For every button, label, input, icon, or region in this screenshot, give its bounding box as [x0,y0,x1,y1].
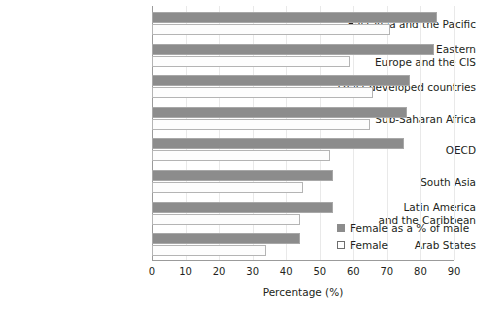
chart-legend: Female as a % of male Female [337,219,469,253]
x-axis-tick-label: 10 [179,266,192,277]
x-axis-tick-label: 0 [149,266,155,277]
bar-female-pct-of-male [152,233,300,244]
bar-group [152,107,454,131]
legend-label-female: Female [350,239,388,251]
bar-female-pct-of-male [152,44,434,55]
x-axis-line [152,260,454,261]
x-axis-tick-label: 70 [381,266,394,277]
legend-label-ratio: Female as a % of male [350,222,469,234]
x-axis-tick-label: 60 [347,266,360,277]
legend-swatch-filled-icon [337,224,345,232]
x-axis-tick-label: 50 [313,266,326,277]
bar-female-pct-of-male [152,202,333,213]
bar-female-pct-of-male [152,107,407,118]
x-axis-tick-label: 20 [213,266,226,277]
bar-female [152,56,350,67]
bar-female [152,245,266,256]
bar-female-pct-of-male [152,12,437,23]
bar-group [152,170,454,194]
x-axis-tick-label: 30 [246,266,259,277]
legend-item-ratio: Female as a % of male [337,219,469,236]
legend-item-female: Female [337,236,469,253]
bar-female [152,182,303,193]
bar-female [152,87,373,98]
bar-female [152,150,330,161]
x-axis-tick-label: 80 [414,266,427,277]
bar-group [152,44,454,68]
bar-group [152,138,454,162]
bar-group [152,12,454,36]
bar-female [152,119,370,130]
x-axis-title: Percentage (%) [152,286,454,298]
x-axis-tick-label: 90 [448,266,461,277]
bar-female [152,24,390,35]
bar-group [152,75,454,99]
bar-chart: East Asia and the PacificCentral and Eas… [0,0,481,318]
bar-female-pct-of-male [152,170,333,181]
bar-female [152,214,300,225]
bar-female-pct-of-male [152,138,404,149]
legend-swatch-hollow-icon [337,241,345,249]
x-axis-tick-label: 40 [280,266,293,277]
bar-female-pct-of-male [152,75,410,86]
